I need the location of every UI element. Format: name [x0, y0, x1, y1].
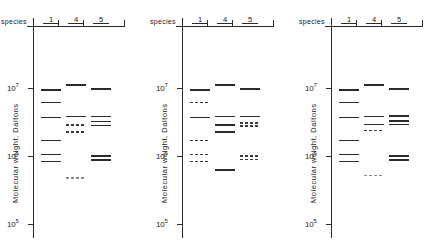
header-separator-tick — [356, 20, 357, 27]
gel-band — [215, 131, 235, 133]
tick-exponent: 7 — [16, 82, 19, 88]
y-axis-tick — [326, 88, 331, 89]
header-separator-tick — [124, 20, 125, 27]
y-axis-tick-label: 107 — [156, 82, 168, 93]
lane-header-underline — [341, 23, 357, 24]
header-separator-tick — [331, 20, 332, 27]
gel-band — [240, 159, 260, 160]
gel-band — [66, 124, 86, 125]
lane-header-underline — [192, 23, 208, 24]
gel-band — [190, 161, 210, 162]
gel-band — [66, 116, 86, 118]
y-axis-tick — [326, 224, 331, 225]
gel-band — [389, 88, 409, 90]
gel-band — [91, 159, 111, 161]
gel-band — [190, 117, 210, 119]
gel-band — [66, 84, 86, 86]
y-axis-line — [182, 18, 183, 238]
header-bracket-rule — [176, 26, 274, 27]
gel-band — [240, 155, 260, 156]
y-axis-tick-label: 105 — [156, 218, 168, 229]
gel-band — [364, 84, 384, 86]
y-axis-tick — [28, 224, 33, 225]
lane-header-underline — [217, 23, 233, 24]
y-axis-tick-label: 105 — [7, 218, 19, 229]
species-label: species — [1, 18, 27, 25]
y-axis-tick-label: 107 — [7, 82, 19, 93]
header-separator-tick — [58, 20, 59, 27]
gel-band — [91, 88, 111, 90]
tick-mantissa: 10 — [305, 220, 314, 229]
gel-band — [339, 154, 359, 156]
gel-band — [364, 175, 384, 176]
panel-2: 107106105Molecular weight, Daltonsspecie… — [149, 0, 298, 245]
species-label: species — [299, 18, 325, 25]
panel-3: 107106105Molecular weight, Daltonsspecie… — [298, 0, 447, 245]
panel-1: 107106105Molecular weight, Daltonsspecie… — [0, 0, 149, 245]
gel-band — [215, 124, 235, 126]
gel-band — [364, 116, 384, 118]
tick-mantissa: 10 — [7, 220, 16, 229]
gel-band — [190, 140, 210, 141]
gel-band — [91, 125, 111, 127]
gel-band — [41, 89, 61, 91]
y-axis-line — [331, 18, 332, 238]
y-axis-title: Molecular weight, Daltons — [11, 103, 20, 203]
gel-band — [41, 154, 61, 156]
gel-band — [240, 116, 260, 118]
y-axis-title: Molecular weight, Daltons — [309, 103, 318, 203]
gel-band — [339, 140, 359, 142]
gel-band — [190, 102, 210, 103]
gel-band — [215, 116, 235, 118]
header-separator-tick — [232, 20, 233, 27]
species-label: species — [150, 18, 176, 25]
gel-band — [91, 121, 111, 123]
gel-band — [91, 155, 111, 157]
gel-band — [41, 102, 61, 104]
lane-header-underline — [43, 23, 59, 24]
tick-exponent: 5 — [314, 218, 317, 224]
tick-exponent: 5 — [165, 218, 168, 224]
gel-band — [215, 169, 235, 171]
gel-band — [389, 124, 409, 126]
y-axis-tick-label: 107 — [305, 82, 317, 93]
tick-mantissa: 10 — [156, 84, 165, 93]
gel-band — [190, 89, 210, 91]
gel-band — [190, 154, 210, 155]
header-separator-tick — [381, 20, 382, 27]
gel-band — [240, 125, 260, 126]
y-axis-title: Molecular weight, Daltons — [160, 103, 169, 203]
gel-band — [240, 122, 260, 123]
tick-exponent: 7 — [165, 82, 168, 88]
y-axis-tick — [28, 156, 33, 157]
tick-mantissa: 10 — [305, 84, 314, 93]
header-separator-tick — [33, 20, 34, 27]
header-separator-tick — [422, 20, 423, 27]
y-axis-tick-label: 105 — [305, 218, 317, 229]
lane-header-underline — [242, 23, 258, 24]
tick-mantissa: 10 — [156, 220, 165, 229]
header-separator-tick — [273, 20, 274, 27]
gel-band — [91, 116, 111, 118]
gel-band — [339, 89, 359, 91]
y-axis-tick — [28, 88, 33, 89]
lane-header-underline — [391, 23, 407, 24]
lane-header-underline — [93, 23, 109, 24]
gel-band — [389, 120, 409, 122]
header-bracket-rule — [325, 26, 423, 27]
gel-band — [41, 117, 61, 119]
gel-band — [339, 161, 359, 163]
y-axis-tick — [177, 88, 182, 89]
header-separator-tick — [207, 20, 208, 27]
gel-band — [389, 159, 409, 161]
gel-band — [389, 115, 409, 117]
gel-band — [215, 84, 235, 86]
tick-exponent: 5 — [16, 218, 19, 224]
lane-header-underline — [366, 23, 382, 24]
gel-electrophoresis-figure: 107106105Molecular weight, Daltonsspecie… — [0, 0, 447, 245]
gel-band — [364, 124, 384, 126]
y-axis-tick — [177, 156, 182, 157]
gel-band — [339, 102, 359, 104]
gel-band — [66, 131, 86, 132]
y-axis-tick — [177, 224, 182, 225]
